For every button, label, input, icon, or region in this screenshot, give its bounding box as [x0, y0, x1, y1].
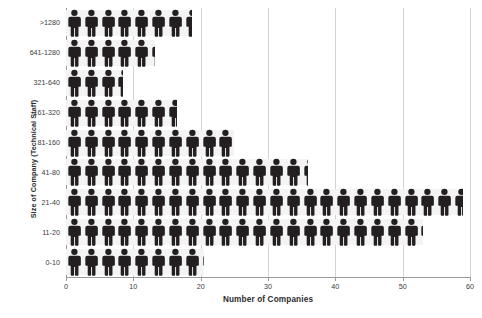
person-icon — [100, 8, 117, 38]
person-icon — [201, 128, 218, 158]
person-icon — [184, 247, 201, 277]
person-icon — [66, 157, 83, 187]
pictogram-row — [66, 68, 470, 98]
person-icon — [150, 247, 167, 277]
x-axis-tick — [201, 277, 202, 281]
person-icon — [318, 187, 335, 217]
person-icon — [66, 68, 83, 98]
x-axis-tick — [268, 277, 269, 281]
pictogram-row — [66, 217, 470, 247]
person-icon — [167, 187, 184, 217]
row-icon-strip — [66, 217, 423, 247]
person-icon — [403, 187, 420, 217]
y-axis-tick-label: 321-640 — [0, 78, 60, 87]
person-icon — [66, 128, 83, 158]
person-icon — [150, 217, 167, 247]
y-axis-tick-label: 641-1280 — [0, 48, 60, 57]
person-icon — [217, 217, 234, 247]
y-axis-tick-label: 81-160 — [0, 138, 60, 147]
person-icon — [234, 157, 251, 187]
person-icon — [133, 247, 150, 277]
pictogram-row — [66, 98, 470, 128]
person-icon — [116, 128, 133, 158]
person-icon — [150, 187, 167, 217]
person-icon — [369, 187, 386, 217]
person-icon — [83, 157, 100, 187]
person-icon — [150, 128, 167, 158]
person-icon — [403, 217, 420, 247]
person-icon — [419, 217, 422, 247]
person-icon — [234, 217, 251, 247]
y-axis-tick-label: 21-40 — [0, 198, 60, 207]
person-icon — [116, 157, 133, 187]
person-icon — [167, 217, 184, 247]
pictogram-row — [66, 187, 470, 217]
person-icon — [100, 68, 117, 98]
person-icon — [116, 217, 133, 247]
person-icon — [150, 98, 167, 128]
pictogram-row — [66, 247, 470, 277]
x-axis-tick-label: 60 — [455, 282, 482, 291]
person-icon — [100, 38, 117, 68]
person-icon — [302, 187, 319, 217]
person-icon — [150, 157, 167, 187]
person-icon — [369, 217, 386, 247]
person-icon — [184, 8, 192, 38]
person-icon — [133, 8, 150, 38]
x-axis-tick — [403, 277, 404, 281]
person-icon — [251, 217, 268, 247]
person-icon — [335, 217, 352, 247]
row-icon-strip — [66, 8, 192, 38]
person-icon — [167, 247, 184, 277]
row-icon-strip — [66, 38, 155, 68]
person-icon — [66, 247, 83, 277]
x-gridline — [470, 8, 471, 277]
person-icon — [133, 157, 150, 187]
person-icon — [201, 187, 218, 217]
person-icon — [83, 98, 100, 128]
person-icon — [217, 187, 234, 217]
person-icon — [66, 217, 83, 247]
y-axis-tick-label: 161-320 — [0, 108, 60, 117]
row-icon-strip — [66, 157, 308, 187]
person-icon — [268, 217, 285, 247]
x-axis-tick — [133, 277, 134, 281]
person-icon — [251, 187, 268, 217]
person-icon — [116, 68, 123, 98]
y-axis-tick-label: 11-20 — [0, 228, 60, 237]
x-axis-title: Number of Companies — [66, 295, 470, 304]
person-icon — [83, 68, 100, 98]
person-icon — [184, 128, 201, 158]
person-icon — [285, 217, 302, 247]
person-icon — [201, 217, 218, 247]
person-icon — [116, 187, 133, 217]
person-icon — [83, 187, 100, 217]
x-axis-tick-label: 20 — [186, 282, 216, 291]
pictogram-row — [66, 8, 470, 38]
person-icon — [116, 8, 133, 38]
pictogram-row — [66, 38, 470, 68]
person-icon — [436, 187, 453, 217]
person-icon — [133, 187, 150, 217]
row-icon-strip — [66, 187, 463, 217]
person-icon — [268, 187, 285, 217]
y-axis-tick-label: 0-10 — [0, 258, 60, 267]
person-icon — [386, 217, 403, 247]
person-icon — [83, 38, 100, 68]
person-icon — [167, 128, 184, 158]
person-icon — [167, 8, 184, 38]
x-axis-tick-label: 30 — [253, 282, 283, 291]
person-icon — [184, 187, 201, 217]
pictogram-row — [66, 157, 470, 187]
x-axis-tick — [335, 277, 336, 281]
person-icon — [352, 187, 369, 217]
person-icon — [83, 128, 100, 158]
x-axis-tick-label: 0 — [51, 282, 81, 291]
row-icon-strip — [66, 68, 123, 98]
person-icon — [100, 217, 117, 247]
person-icon — [116, 98, 133, 128]
pictogram-chart: Size of Company (Technical Staff) Number… — [0, 0, 482, 318]
person-icon — [100, 98, 117, 128]
person-icon — [150, 8, 167, 38]
person-icon — [184, 157, 201, 187]
